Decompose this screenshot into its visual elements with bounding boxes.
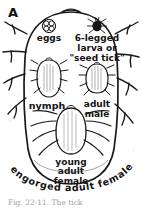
panel-label-a: A bbox=[8, 5, 18, 20]
label-young-female-line2: adult bbox=[58, 166, 85, 176]
label-eggs: eggs bbox=[37, 33, 61, 43]
tick-life-cycle-figure: A eggs bbox=[0, 0, 143, 208]
label-young-female-line1: young bbox=[55, 157, 86, 167]
label-larva-line2: larva or bbox=[77, 43, 117, 53]
label-larva-line1: 6-legged bbox=[75, 33, 120, 43]
label-adult-male-line1: adult bbox=[84, 99, 111, 109]
label-nymph: nymph bbox=[29, 100, 66, 111]
label-larva-line3: "seed tick" bbox=[69, 53, 124, 63]
figure-caption: Fig. 22-11. The tick bbox=[8, 198, 83, 207]
